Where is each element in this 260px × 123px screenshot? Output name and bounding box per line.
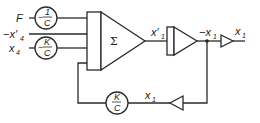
svg-text:1: 1 <box>45 7 50 17</box>
svg-text:K: K <box>114 92 121 102</box>
svg-text:x: x <box>144 89 151 101</box>
coefficient-pot-K-over-C: − K C <box>35 37 57 59</box>
svg-text:4: 4 <box>16 49 20 56</box>
output-inverter <box>221 35 233 47</box>
input-label-x4: x 4 <box>8 42 20 56</box>
svg-text:1: 1 <box>242 32 246 39</box>
signal-label-x1-prime: x′ 1 <box>150 26 165 40</box>
svg-text:C: C <box>44 48 51 58</box>
svg-text:x′: x′ <box>150 26 160 38</box>
sigma-symbol: Σ <box>110 35 118 48</box>
integrator-amplifier <box>167 27 197 55</box>
signal-label-x1-feedback: x 1 <box>144 89 156 103</box>
input-label-F: F <box>16 12 24 24</box>
svg-text:C: C <box>44 18 51 28</box>
summer-amplifier: Σ <box>87 12 145 70</box>
input-label-neg-x4-prime: −x′ 4 <box>3 28 24 42</box>
svg-text:x: x <box>234 25 241 37</box>
block-diagram: F −x′ 4 x 4 − 1 C − K C Σ x′ 1 <box>0 0 260 123</box>
svg-text:4: 4 <box>20 35 24 42</box>
svg-text:1: 1 <box>213 33 217 40</box>
svg-text:K: K <box>44 37 51 47</box>
svg-text:1: 1 <box>161 33 165 40</box>
coefficient-pot-1-over-C: − 1 C <box>35 7 57 29</box>
svg-text:x: x <box>8 42 15 54</box>
signal-label-x1-out: x 1 <box>234 25 246 39</box>
coefficient-pot-feedback-K-over-C: K C <box>106 92 128 114</box>
wire-feedback-right <box>183 41 207 103</box>
signal-label-neg-x1: −x 1 <box>199 26 217 40</box>
svg-text:−x: −x <box>199 26 211 38</box>
svg-text:1: 1 <box>152 96 156 103</box>
svg-text:−: − <box>38 12 43 22</box>
svg-text:−: − <box>38 42 43 52</box>
svg-text:C: C <box>114 103 121 113</box>
svg-text:−x′: −x′ <box>3 28 18 40</box>
feedback-inverter <box>170 96 183 110</box>
